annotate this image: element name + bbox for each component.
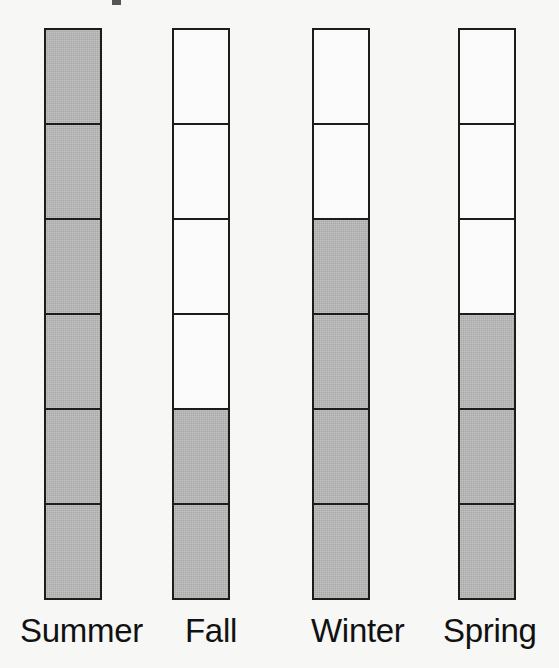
bar-spring-cell-5 [460, 410, 514, 505]
bar-winter-cell-4 [314, 315, 368, 410]
bar-winter[interactable] [312, 28, 370, 600]
bar-fall-cell-4 [174, 315, 228, 410]
bar-group-fall: Fall [172, 0, 230, 668]
bar-winter-cell-2 [314, 125, 368, 220]
bar-label-fall: Fall [185, 612, 237, 650]
bar-spring[interactable] [458, 28, 516, 600]
bar-winter-cell-1 [314, 30, 368, 125]
bar-group-winter: Winter [312, 0, 370, 668]
bar-summer[interactable] [44, 28, 102, 600]
bar-group-spring: Spring [458, 0, 516, 668]
bar-fall-cell-3 [174, 220, 228, 315]
bar-spring-cell-6 [460, 505, 514, 598]
bar-summer-cell-3 [46, 220, 100, 315]
bar-fall-cell-2 [174, 125, 228, 220]
bar-spring-cell-2 [460, 125, 514, 220]
stacked-bar-chart: Summer Fall Winter [0, 0, 559, 668]
bar-winter-cell-3 [314, 220, 368, 315]
bar-fall-cell-1 [174, 30, 228, 125]
bar-fall-cell-6 [174, 505, 228, 598]
bar-spring-cell-4 [460, 315, 514, 410]
bar-summer-cell-6 [46, 505, 100, 598]
bar-summer-cell-5 [46, 410, 100, 505]
bar-winter-cell-5 [314, 410, 368, 505]
bar-spring-cell-3 [460, 220, 514, 315]
bar-label-summer: Summer [20, 612, 143, 650]
bar-summer-cell-4 [46, 315, 100, 410]
scan-artifact-mark [112, 0, 121, 5]
bar-winter-cell-6 [314, 505, 368, 598]
bar-spring-cell-1 [460, 30, 514, 125]
bar-label-winter: Winter [311, 612, 405, 650]
bar-summer-cell-2 [46, 125, 100, 220]
bar-label-spring: Spring [443, 612, 537, 650]
bar-fall-cell-5 [174, 410, 228, 505]
bar-summer-cell-1 [46, 30, 100, 125]
bar-fall[interactable] [172, 28, 230, 600]
bar-group-summer: Summer [44, 0, 102, 668]
